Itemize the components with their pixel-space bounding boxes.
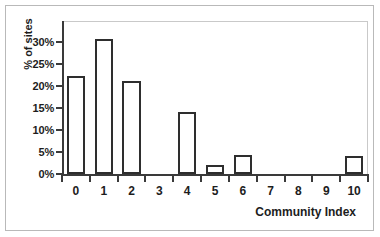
- x-axis-tick-label: 8: [295, 184, 302, 198]
- x-axis-tick-label: 6: [239, 184, 246, 198]
- y-axis-tick: [56, 41, 63, 43]
- x-axis-title: Community Index: [0, 205, 356, 219]
- x-axis-tick: [89, 175, 91, 182]
- x-axis-tick-label: 1: [100, 184, 107, 198]
- x-axis-tick: [144, 175, 146, 182]
- bar: [122, 81, 140, 174]
- x-axis-tick-label: 5: [212, 184, 219, 198]
- y-axis-title: % of sites: [22, 4, 34, 84]
- x-axis-tick: [200, 175, 202, 182]
- bar: [67, 76, 85, 174]
- x-axis-tick-label: 3: [156, 184, 163, 198]
- y-axis-tick-label: 5%: [39, 146, 55, 158]
- x-axis-tick: [228, 175, 230, 182]
- y-axis-tick: [56, 63, 63, 65]
- y-axis-tick-label: 20%: [33, 80, 54, 92]
- x-axis-line: [62, 174, 369, 176]
- x-axis-tick-label: 10: [347, 184, 360, 198]
- x-axis-tick-label: 2: [128, 184, 135, 198]
- x-axis-tick: [339, 175, 341, 182]
- bar-chart-figure: 0%5%10%15%20%25%30% 012345678910 % of si…: [0, 0, 380, 237]
- bar: [178, 112, 196, 174]
- x-axis-tick: [311, 175, 313, 182]
- bar: [206, 165, 224, 174]
- bar: [95, 39, 113, 174]
- x-axis-tick-label: 0: [73, 184, 80, 198]
- bar: [234, 155, 252, 174]
- y-axis-tick: [56, 151, 63, 153]
- y-axis-tick-label: 30%: [33, 36, 54, 48]
- y-axis-tick: [56, 107, 63, 109]
- y-axis-tick: [56, 85, 63, 87]
- y-axis-tick-label: 10%: [33, 124, 54, 136]
- y-axis-tick: [56, 129, 63, 131]
- x-axis-tick: [172, 175, 174, 182]
- x-axis-tick-label: 4: [184, 184, 191, 198]
- y-axis-tick-label: 0%: [39, 168, 55, 180]
- x-axis-tick: [61, 175, 63, 182]
- bar: [345, 156, 363, 174]
- y-axis-tick-label: 25%: [33, 58, 54, 70]
- x-axis-tick: [256, 175, 258, 182]
- x-axis-tick: [117, 175, 119, 182]
- y-axis-tick-label: 15%: [33, 102, 54, 114]
- x-axis-tick: [284, 175, 286, 182]
- x-axis-tick-label: 9: [323, 184, 330, 198]
- x-axis-tick-label: 7: [267, 184, 274, 198]
- x-axis-tick: [367, 175, 369, 182]
